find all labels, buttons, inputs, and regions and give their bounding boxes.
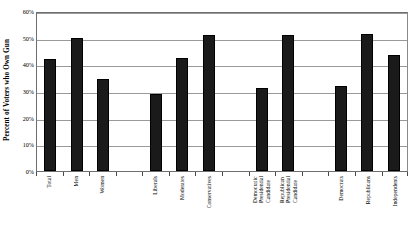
x-axis-label-cell: Conservatives xyxy=(195,176,222,226)
x-axis-label-cell: Independents xyxy=(382,176,409,226)
bar-slot xyxy=(196,13,222,171)
plot-area xyxy=(36,12,408,172)
y-axis-tick-label: 30% xyxy=(23,89,34,95)
bar-slot xyxy=(248,13,274,171)
x-axis-label: Moderates xyxy=(179,176,185,200)
bar xyxy=(256,88,268,171)
x-axis-label-cell xyxy=(116,176,143,226)
x-axis-label-line: Candidate xyxy=(292,176,298,203)
x-axis-label-line: Presidential xyxy=(285,176,291,203)
bar-slot xyxy=(63,13,89,171)
x-axis-label-line: Republicans xyxy=(365,176,371,204)
y-axis-tick-label: 40% xyxy=(23,62,34,68)
x-axis-label-cell: Moderates xyxy=(169,176,196,226)
bar-slot xyxy=(90,13,116,171)
bar-slot xyxy=(354,13,380,171)
y-axis-tick-label: 0% xyxy=(26,169,34,175)
y-axis-tick-labels: 0%10%20%30%40%50%60% xyxy=(14,0,36,180)
bar xyxy=(335,86,347,171)
y-axis-tick-label: 50% xyxy=(23,36,34,42)
x-axis-label-cell xyxy=(222,176,249,226)
x-axis-label-line: Candidate xyxy=(265,176,271,203)
bar-slot xyxy=(37,13,63,171)
x-axis-label-line: Moderates xyxy=(179,176,185,200)
bar xyxy=(44,59,56,171)
x-axis-label-line: Independents xyxy=(392,176,398,206)
x-axis-label-cell: DemocraticPresidentialCandidate xyxy=(249,176,276,226)
x-axis-label-line: Conservatives xyxy=(206,176,212,208)
x-axis-label-cell xyxy=(302,176,329,226)
x-axis-label-line: Men xyxy=(73,176,79,186)
x-axis-label: Republicans xyxy=(365,176,371,204)
x-axis-label-line: Republican xyxy=(279,176,285,203)
bar xyxy=(97,79,109,171)
x-axis-label: Democrats xyxy=(338,176,344,201)
bar xyxy=(361,34,373,171)
bar-slot xyxy=(143,13,169,171)
x-axis-label: Independents xyxy=(392,176,398,206)
x-axis-labels: TotalMenWomenLiberalsModeratesConservati… xyxy=(36,176,408,226)
x-axis-label-line: Presidential xyxy=(259,176,265,203)
x-axis-label-line: Democrats xyxy=(338,176,344,201)
bar-slot xyxy=(169,13,195,171)
x-axis-label-line: Liberals xyxy=(152,176,158,195)
x-axis-label-cell: RepublicanPresidentialCandidate xyxy=(275,176,302,226)
bar-slot xyxy=(380,13,406,171)
x-axis-label: Women xyxy=(99,176,105,194)
x-axis-label-cell: Liberals xyxy=(142,176,169,226)
x-axis-label-cell: Republicans xyxy=(355,176,382,226)
x-axis-label-cell: Women xyxy=(89,176,116,226)
bar-slot xyxy=(328,13,354,171)
bar xyxy=(282,35,294,171)
bar-slot xyxy=(301,13,327,171)
x-axis-label: Conservatives xyxy=(206,176,212,208)
x-axis-label-cell: Total xyxy=(36,176,63,226)
y-axis-title-text: Percent of Voters who Own Gun xyxy=(4,39,11,141)
bar-slot xyxy=(222,13,248,171)
x-axis-label: Liberals xyxy=(152,176,158,195)
x-axis-label-cell: Men xyxy=(63,176,90,226)
bar xyxy=(176,58,188,171)
bar xyxy=(150,94,162,171)
x-axis-label: RepublicanPresidentialCandidate xyxy=(279,176,298,203)
x-axis-label-line: Total xyxy=(46,176,52,188)
y-axis-tick-label: 60% xyxy=(23,9,34,15)
bars-layer xyxy=(37,13,407,171)
x-axis-label: Men xyxy=(73,176,79,186)
bar xyxy=(71,38,83,171)
x-axis-label-line: Women xyxy=(99,176,105,194)
bar-chart: Percent of Voters who Own Gun 0%10%20%30… xyxy=(0,0,414,226)
bar xyxy=(203,35,215,171)
x-axis-label-cell: Democrats xyxy=(328,176,355,226)
y-axis-tick-label: 10% xyxy=(23,142,34,148)
bar xyxy=(388,55,400,171)
bar-slot xyxy=(275,13,301,171)
x-axis-label: Total xyxy=(46,176,52,188)
x-axis-label: DemocraticPresidentialCandidate xyxy=(252,176,271,203)
bar-slot xyxy=(116,13,142,171)
y-axis-tick-label: 20% xyxy=(23,116,34,122)
